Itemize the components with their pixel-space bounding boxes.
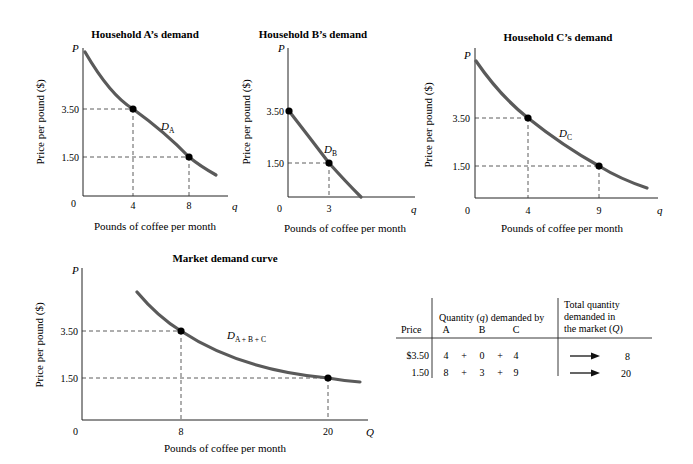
row-2-price: 1.50	[412, 367, 430, 378]
chart-c-x-var: q	[657, 204, 663, 216]
market-x-label: Pounds of coffee per month	[164, 442, 286, 454]
chart-b-ytick-350: 3.50	[267, 106, 285, 117]
chart-c-xtick-4: 4	[526, 205, 531, 216]
chart-a-title: Household A’s demand	[91, 28, 199, 40]
chart-c-point-2	[595, 162, 602, 169]
market-xtick-20: 20	[323, 426, 333, 437]
row-1-c: 4	[514, 350, 519, 361]
row-2-plus-1: +	[461, 367, 467, 378]
table-row: 1.50 8 + 3 + 9 20	[412, 367, 632, 379]
row-1-plus-2: +	[497, 350, 503, 361]
chart-b-point-1	[285, 107, 292, 114]
chart-a-y-var: P	[71, 42, 79, 54]
row-2-a: 8	[444, 367, 449, 378]
table-header-total-3: the market (Q)	[564, 323, 623, 335]
chart-b-title: Household B’s demand	[259, 28, 367, 40]
row-2-b: 3	[480, 367, 485, 378]
chart-a-point-1	[129, 105, 136, 112]
row-2-c: 9	[514, 367, 519, 378]
chart-a-xtick-8: 8	[187, 200, 192, 211]
market-origin: 0	[73, 426, 78, 437]
market-point-2	[324, 374, 331, 381]
market-point-1	[177, 327, 184, 334]
row-1-total: 8	[625, 351, 630, 362]
chart-c-guides	[475, 118, 599, 198]
table-header-price: Price	[401, 324, 422, 335]
chart-c-xtick-9: 9	[597, 205, 602, 216]
chart-a-guides	[83, 109, 189, 196]
table-header-quantity-group: Quantity (q) demanded by	[439, 312, 544, 324]
chart-a-xtick-4: 4	[131, 200, 136, 211]
chart-c-point-1	[524, 114, 531, 121]
table-header-b: B	[479, 324, 486, 335]
arrow-right-icon	[570, 370, 600, 377]
arrow-right-icon	[570, 353, 600, 360]
chart-c-y-label: Price per pound ($)	[422, 82, 435, 168]
market-curve-label: DA + B + C	[226, 329, 266, 344]
chart-b-guides	[288, 163, 329, 197]
table-header-a: A	[442, 324, 450, 335]
chart-a-point-2	[185, 153, 192, 160]
chart-a-ytick-350: 3.50	[62, 104, 80, 115]
table-header-total-2: demanded in	[564, 311, 615, 322]
chart-a-ytick-150: 1.50	[62, 152, 80, 163]
row-2-plus-2: +	[497, 367, 503, 378]
chart-market-demand: Market demand curve P Q 0 3.50 1.50 8 20…	[33, 252, 374, 454]
figure-canvas: Household A’s demand P q 0 3.50 1.50 4 8…	[0, 0, 693, 464]
chart-b-x-label: Pounds of coffee per month	[284, 222, 406, 234]
chart-household-a: Household A’s demand P q 0 3.50 1.50 4 8…	[34, 28, 238, 232]
chart-b-x-var: q	[411, 203, 417, 215]
market-title: Market demand curve	[172, 252, 277, 264]
row-2-total: 20	[621, 368, 631, 379]
chart-household-c: Household C’s demand P q 0 3.50 1.50 4 9…	[422, 31, 663, 234]
chart-c-curve-label: DC	[558, 127, 572, 142]
chart-c-x-label: Pounds of coffee per month	[501, 222, 623, 234]
market-y-var: P	[71, 264, 79, 276]
chart-b-y-var: P	[277, 42, 285, 54]
chart-b-ytick-150: 1.50	[267, 158, 285, 169]
chart-c-ytick-350: 3.50	[453, 113, 471, 124]
chart-a-x-var: q	[232, 200, 238, 212]
chart-household-b: Household B’s demand P q 0 3.50 1.50 3 D…	[240, 28, 417, 234]
chart-b-origin: 0	[277, 203, 282, 214]
chart-a-origin: 0	[71, 198, 76, 209]
market-x-var: Q	[366, 426, 374, 438]
row-1-plus-1: +	[461, 350, 467, 361]
chart-c-title: Household C’s demand	[503, 31, 612, 43]
chart-a-demand-curve	[85, 52, 216, 175]
row-1-b: 0	[480, 350, 485, 361]
chart-c-origin: 0	[465, 205, 470, 216]
chart-b-y-label: Price per pound ($)	[240, 79, 253, 165]
market-ytick-350: 3.50	[61, 326, 79, 337]
chart-c-demand-curve	[476, 61, 647, 188]
table-header-total-1: Total quantity	[564, 299, 620, 310]
chart-b-point-2	[325, 159, 332, 166]
chart-a-y-label: Price per pound ($)	[34, 79, 47, 165]
chart-a-x-label: Pounds of coffee per month	[94, 220, 216, 232]
chart-c-y-var: P	[463, 49, 471, 61]
market-ytick-150: 1.50	[61, 373, 79, 384]
market-y-label: Price per pound ($)	[33, 302, 46, 388]
chart-b-xtick-3: 3	[327, 203, 332, 214]
table-header-c: C	[513, 324, 520, 335]
demand-summary-table: Price Quantity (q) demanded by A B C Tot…	[396, 298, 652, 379]
market-xtick-8: 8	[179, 426, 184, 437]
row-1-price: $3.50	[407, 350, 430, 361]
chart-c-ytick-150: 1.50	[453, 161, 471, 172]
table-row: $3.50 4 + 0 + 4 8	[407, 350, 631, 362]
row-1-a: 4	[444, 350, 449, 361]
